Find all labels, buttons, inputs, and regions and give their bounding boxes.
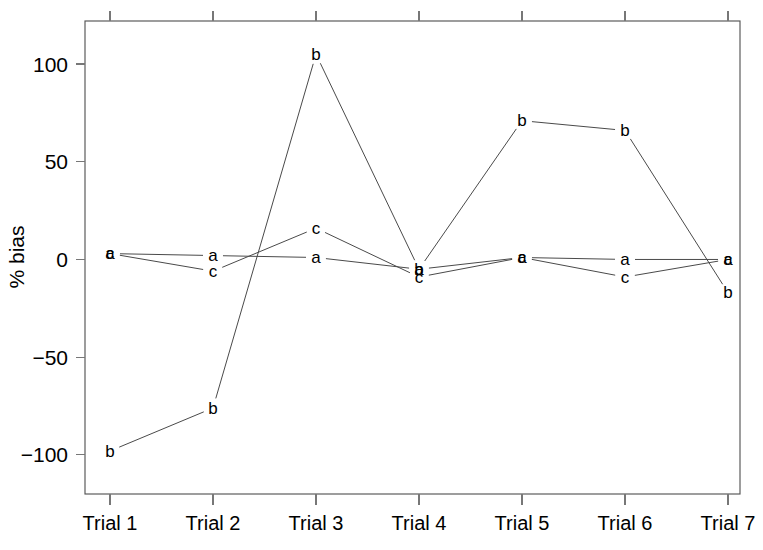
x-tick-label: Trial 4 xyxy=(392,512,447,534)
plot-frame xyxy=(85,21,740,494)
x-tick-label: Trial 7 xyxy=(701,512,756,534)
bias-line-chart: 100500−50−100 Trial 1Trial 2Trial 3Trial… xyxy=(0,0,763,550)
data-point-label-c: c xyxy=(106,244,115,263)
data-point-label-b: b xyxy=(208,399,217,418)
y-tick-label: 0 xyxy=(56,248,68,271)
data-point-label-a: a xyxy=(311,248,321,267)
series-segment-a xyxy=(429,259,512,268)
x-tick-label: Trial 2 xyxy=(186,512,241,534)
data-point-label-c: c xyxy=(209,262,218,281)
data-point-label-a: a xyxy=(620,250,630,269)
series-segment-c xyxy=(222,232,307,267)
data-point-label-c: c xyxy=(518,248,527,267)
series-segment-a xyxy=(532,258,615,260)
x-axis-tick-labels: Trial 1Trial 2Trial 3Trial 4Trial 5Trial… xyxy=(83,512,756,534)
y-axis-ticks xyxy=(76,64,85,455)
data-point-label-b: b xyxy=(105,442,114,461)
chart-container: 100500−50−100 Trial 1Trial 2Trial 3Trial… xyxy=(0,0,763,550)
series-segment-b xyxy=(320,63,414,260)
series-segment-a xyxy=(120,254,203,256)
series-segment-b xyxy=(532,122,615,130)
data-point-label-b: b xyxy=(517,111,526,130)
data-point-label-c: c xyxy=(312,219,321,238)
y-axis-title: % bias xyxy=(5,225,28,288)
data-point-label-c: c xyxy=(415,268,424,287)
series-segment-b xyxy=(119,412,204,447)
series-segment-b xyxy=(216,64,313,399)
series-segment-c xyxy=(325,232,410,272)
y-tick-label: −100 xyxy=(21,443,68,466)
y-tick-label: −50 xyxy=(32,346,68,369)
data-point-label-c: c xyxy=(724,250,733,269)
x-axis-ticks-top xyxy=(110,11,728,21)
data-point-label-c: c xyxy=(621,268,630,287)
x-tick-label: Trial 1 xyxy=(83,512,138,534)
series-segment-c xyxy=(429,259,512,275)
plot-box-border xyxy=(85,21,740,494)
y-tick-label: 100 xyxy=(33,53,68,76)
y-tick-label: 50 xyxy=(45,150,68,173)
x-tick-label: Trial 5 xyxy=(495,512,550,534)
series-segment-c xyxy=(532,259,615,275)
series-segment-c xyxy=(635,261,718,275)
data-point-label-b: b xyxy=(311,45,320,64)
series-segment-b xyxy=(425,129,517,261)
x-tick-label: Trial 6 xyxy=(598,512,653,534)
x-tick-label: Trial 3 xyxy=(289,512,344,534)
data-point-label-b: b xyxy=(620,121,629,140)
x-axis-ticks-bottom xyxy=(110,494,728,505)
series-segment-a xyxy=(223,256,306,258)
data-point-label-b: b xyxy=(723,283,732,302)
series-point-labels: aaaaaaabbbbbbbccccccc xyxy=(105,45,733,461)
series-segment-c xyxy=(120,255,203,269)
